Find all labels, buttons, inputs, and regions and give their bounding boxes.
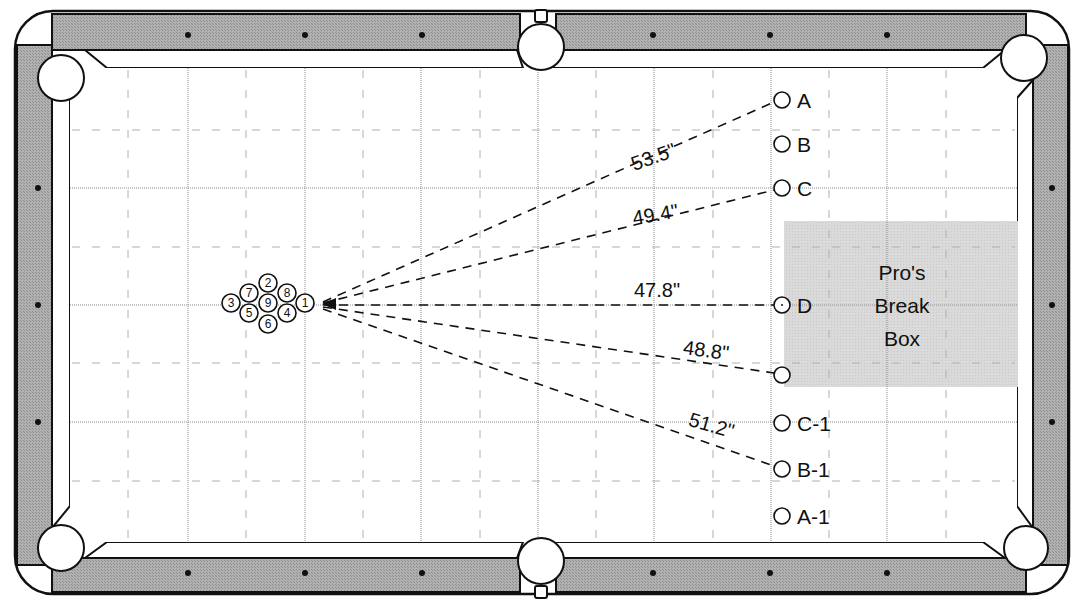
pocket-top-left — [38, 55, 84, 101]
label-C: C — [797, 177, 812, 200]
ball-2: 2 — [265, 276, 272, 290]
ball-3: 3 — [228, 296, 235, 310]
left-rail — [17, 45, 52, 565]
label-C-1: C-1 — [797, 412, 831, 435]
ball-6: 6 — [265, 317, 272, 331]
ball-7: 7 — [246, 286, 253, 300]
cushion-bottom-left — [85, 542, 523, 558]
pocket-bottom-right — [1004, 526, 1048, 570]
top-rail-left — [52, 14, 520, 50]
pocket-top-middle-tab — [535, 10, 547, 22]
pocket-top-right — [1001, 35, 1047, 81]
position-lower — [774, 367, 790, 383]
pocket-bottom-middle — [518, 538, 564, 584]
label-A: A — [797, 89, 811, 112]
ball-1: 1 — [302, 296, 309, 310]
svg-text:Break: Break — [875, 294, 930, 317]
svg-text:Box: Box — [884, 327, 921, 350]
cushion-left — [52, 80, 70, 528]
position-C — [774, 180, 790, 196]
position-B — [774, 136, 790, 152]
label-B: B — [797, 133, 811, 156]
svg-text:Pro's: Pro's — [878, 261, 925, 284]
pocket-top-middle — [518, 24, 564, 70]
ball-9: 9 — [265, 296, 272, 310]
cushion-right — [1017, 80, 1033, 528]
ball-8: 8 — [284, 286, 291, 300]
position-B-1 — [774, 461, 790, 477]
pocket-bottom-left — [38, 525, 84, 571]
top-rail-right — [556, 14, 1026, 50]
cushion-top-left — [85, 50, 523, 68]
label-D: D — [797, 294, 812, 317]
pocket-bottom-middle-tab — [535, 586, 547, 598]
position-A-1 — [774, 508, 790, 524]
cushion-bottom-right — [553, 542, 1005, 558]
ball-4: 4 — [284, 306, 291, 320]
table-svg: A B C D C-1 B-1 A-1 53.5" 49.4" 47.8" 48… — [0, 0, 1083, 610]
bottom-rail-left — [52, 558, 520, 592]
position-A — [774, 92, 790, 108]
label-B-1: B-1 — [797, 458, 830, 481]
pool-table-diagram: A B C D C-1 B-1 A-1 53.5" 49.4" 47.8" 48… — [0, 0, 1083, 610]
bottom-rail-right — [556, 558, 1026, 592]
position-C-1 — [774, 415, 790, 431]
distance-D: 47.8" — [634, 279, 680, 301]
cushion-top-right — [553, 50, 1005, 68]
ball-5: 5 — [246, 306, 253, 320]
label-A-1: A-1 — [797, 505, 830, 528]
